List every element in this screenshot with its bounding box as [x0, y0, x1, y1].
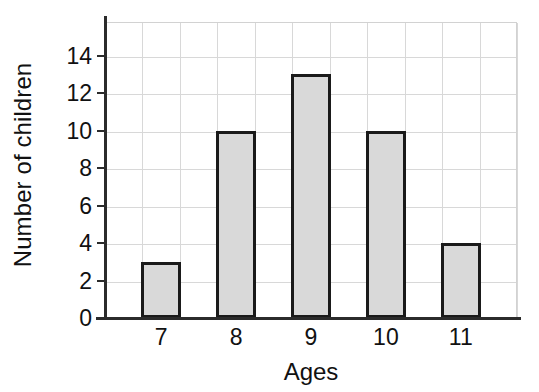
y-axis-tick-label: 14 [66, 44, 92, 67]
x-axis-tick-label: 8 [230, 324, 243, 352]
y-axis-tick-label: 0 [79, 307, 92, 330]
y-axis-spine [104, 16, 107, 320]
bar [216, 131, 256, 318]
bar [291, 74, 331, 318]
bar-chart-figure: Number of children 02468101214 7891011 A… [0, 0, 539, 392]
y-axis-tick-label: 12 [66, 82, 92, 105]
x-axis-tick-label: 10 [373, 324, 399, 352]
y-axis-tick-label: 6 [79, 194, 92, 217]
y-axis-tick-label: 2 [79, 269, 92, 292]
y-axis-tick-label: 8 [79, 157, 92, 180]
x-axis-tick-label: 11 [449, 324, 473, 352]
plot-area [105, 22, 517, 318]
y-axis-title-text: Number of children [9, 63, 37, 268]
bars-layer [105, 23, 516, 318]
y-axis-tick-label: 10 [66, 119, 92, 142]
bar [441, 243, 481, 318]
x-axis-tick-label: 9 [305, 324, 318, 352]
bar [141, 262, 181, 318]
x-axis-title: Ages [105, 358, 517, 386]
y-axis-tick-labels: 02468101214 [46, 22, 96, 318]
x-axis-spine [96, 317, 521, 320]
x-axis-tick-label: 7 [155, 324, 168, 352]
y-axis-title: Number of children [0, 0, 46, 330]
bar [366, 131, 406, 318]
y-axis-tick-label: 4 [79, 232, 92, 255]
x-axis-tick-labels: 7891011 [105, 324, 517, 356]
gridline-vertical [517, 23, 518, 318]
